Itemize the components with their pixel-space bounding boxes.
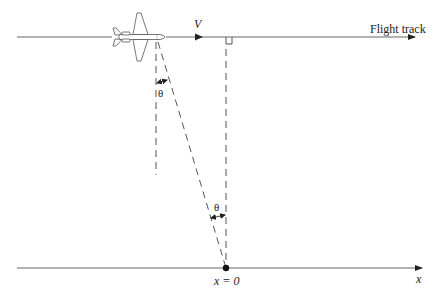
theta-top-label: θ <box>158 87 163 99</box>
slant-dashed-line <box>158 42 226 268</box>
origin-point <box>223 265 229 271</box>
origin-label: x = 0 <box>213 274 239 288</box>
velocity-label: V <box>194 17 203 31</box>
diagram-canvas: V Flight track θ θ x x = 0 <box>0 0 439 305</box>
theta-bottom-label: θ <box>214 201 219 213</box>
aircraft-icon <box>113 13 165 61</box>
x-axis-label: x <box>415 272 422 286</box>
theta-top-arc <box>157 80 167 83</box>
velocity-arrow-icon <box>195 34 203 41</box>
flight-track-label: Flight track <box>370 22 426 36</box>
theta-bottom-arc <box>211 215 225 218</box>
right-angle-marker <box>226 37 232 44</box>
